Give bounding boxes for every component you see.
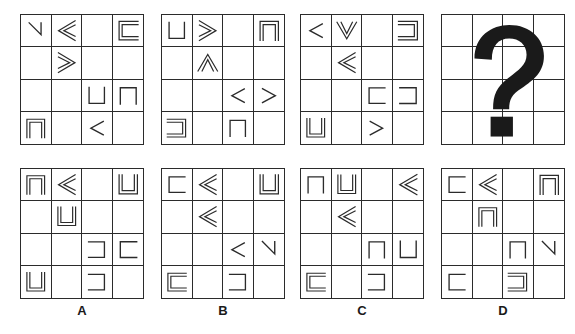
grid-cell-r2-c3	[503, 201, 534, 233]
puzzle-stage: ABCD	[0, 0, 575, 334]
grid-cell-r2-c2	[193, 47, 224, 79]
grid-cell-r1-c3	[223, 15, 254, 47]
grid-cell-r3-c2	[332, 80, 363, 112]
grid-cell-r2-c2	[193, 201, 224, 233]
grid-cell-r4-c4	[393, 266, 424, 298]
grid-cell-r4-c1	[21, 266, 52, 298]
grid-cell-r2-c4	[534, 47, 565, 79]
grid-cell-r1-c2	[193, 15, 224, 47]
grid-cell-r2-c3	[503, 47, 534, 79]
grid-cell-r4-c3	[82, 266, 113, 298]
grid-cell-r2-c3	[223, 47, 254, 79]
problem-panel-2	[161, 14, 285, 145]
problem-panel-3	[300, 14, 424, 145]
problem-panel-4-missing-grid	[441, 14, 565, 145]
grid-cell-r3-c1	[301, 234, 332, 266]
grid-cell-r3-c3	[223, 80, 254, 112]
grid-cell-r2-c4	[254, 201, 285, 233]
grid-cell-r4-c2	[193, 266, 224, 298]
grid-cell-r4-c1	[162, 112, 193, 144]
problem-panel-2-grid	[161, 14, 285, 145]
grid-cell-r1-c3	[503, 15, 534, 47]
grid-cell-r4-c2	[473, 112, 504, 144]
grid-cell-r3-c3	[82, 80, 113, 112]
grid-cell-r3-c2	[193, 234, 224, 266]
option-b[interactable]	[161, 168, 285, 299]
grid-cell-r2-c1	[301, 47, 332, 79]
problem-panel-4-missing	[441, 14, 565, 145]
grid-cell-r1-c4	[254, 15, 285, 47]
grid-cell-r2-c1	[162, 201, 193, 233]
grid-cell-r4-c2	[52, 266, 83, 298]
grid-cell-r3-c4	[113, 234, 144, 266]
grid-cell-r1-c1	[21, 169, 52, 201]
grid-cell-r1-c2	[332, 169, 363, 201]
option-d-label: D	[441, 303, 565, 318]
grid-cell-r1-c3	[223, 169, 254, 201]
grid-cell-r1-c2	[193, 169, 224, 201]
grid-cell-r3-c2	[52, 80, 83, 112]
problem-panel-1	[20, 14, 144, 145]
option-c[interactable]	[300, 168, 424, 299]
grid-cell-r2-c4	[534, 201, 565, 233]
grid-cell-r2-c4	[254, 47, 285, 79]
grid-cell-r1-c1	[162, 169, 193, 201]
option-b-grid	[161, 168, 285, 299]
grid-cell-r4-c3	[362, 266, 393, 298]
grid-cell-r2-c1	[21, 201, 52, 233]
grid-cell-r2-c4	[393, 47, 424, 79]
grid-cell-r1-c3	[362, 15, 393, 47]
grid-cell-r3-c4	[393, 80, 424, 112]
grid-cell-r4-c1	[162, 266, 193, 298]
grid-cell-r1-c2	[473, 169, 504, 201]
grid-cell-r4-c1	[442, 112, 473, 144]
grid-cell-r1-c4	[393, 15, 424, 47]
grid-cell-r3-c1	[162, 234, 193, 266]
option-a[interactable]	[20, 168, 144, 299]
problem-panel-3-grid	[300, 14, 424, 145]
grid-cell-r4-c2	[332, 266, 363, 298]
grid-cell-r1-c3	[362, 169, 393, 201]
grid-cell-r2-c4	[113, 47, 144, 79]
grid-cell-r1-c2	[332, 15, 363, 47]
grid-cell-r3-c3	[362, 80, 393, 112]
grid-cell-r3-c2	[193, 80, 224, 112]
grid-cell-r2-c2	[473, 47, 504, 79]
grid-cell-r3-c1	[21, 234, 52, 266]
grid-cell-r4-c2	[193, 112, 224, 144]
grid-cell-r3-c1	[442, 80, 473, 112]
grid-cell-r2-c2	[473, 201, 504, 233]
grid-cell-r4-c4	[534, 112, 565, 144]
grid-cell-r2-c1	[442, 47, 473, 79]
grid-cell-r2-c2	[52, 201, 83, 233]
grid-cell-r3-c3	[362, 234, 393, 266]
grid-cell-r3-c4	[534, 234, 565, 266]
grid-cell-r3-c4	[113, 80, 144, 112]
grid-cell-r2-c1	[162, 47, 193, 79]
grid-cell-r3-c3	[223, 234, 254, 266]
grid-cell-r2-c4	[393, 201, 424, 233]
option-d-grid	[441, 168, 565, 299]
grid-cell-r4-c3	[503, 112, 534, 144]
grid-cell-r4-c4	[254, 266, 285, 298]
grid-cell-r2-c3	[82, 47, 113, 79]
grid-cell-r1-c4	[113, 169, 144, 201]
grid-cell-r4-c2	[473, 266, 504, 298]
grid-cell-r3-c1	[162, 80, 193, 112]
grid-cell-r4-c3	[223, 266, 254, 298]
grid-cell-r3-c4	[254, 80, 285, 112]
grid-cell-r3-c2	[52, 234, 83, 266]
grid-cell-r2-c2	[332, 201, 363, 233]
grid-cell-r1-c3	[82, 15, 113, 47]
grid-cell-r1-c1	[442, 15, 473, 47]
grid-cell-r3-c2	[332, 234, 363, 266]
grid-cell-r4-c2	[332, 112, 363, 144]
option-c-grid	[300, 168, 424, 299]
option-d[interactable]	[441, 168, 565, 299]
grid-cell-r4-c3	[503, 266, 534, 298]
grid-cell-r1-c4	[393, 169, 424, 201]
grid-cell-r3-c2	[473, 80, 504, 112]
grid-cell-r1-c2	[52, 169, 83, 201]
grid-cell-r2-c1	[442, 201, 473, 233]
option-b-label: B	[161, 303, 285, 318]
